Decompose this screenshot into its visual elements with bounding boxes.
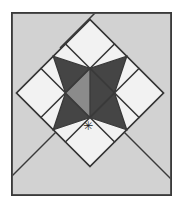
quilt-block-figure: ✳: [0, 0, 183, 211]
asterisk-marker: ✳: [83, 119, 93, 133]
quilt-block-svg: ✳: [0, 0, 183, 211]
